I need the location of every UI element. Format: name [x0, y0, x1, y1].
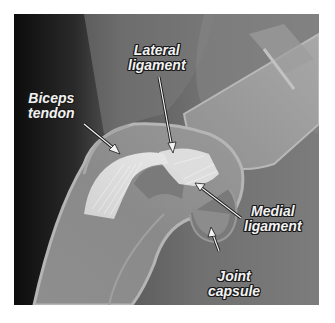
xray-image: Biceps tendon Lateral ligament Medial li… [14, 14, 319, 305]
label-line: Medial [244, 204, 302, 219]
label-line: capsule [208, 284, 260, 299]
label-line: tendon [28, 106, 75, 121]
label-joint-capsule: Joint capsule [208, 269, 260, 299]
label-biceps-tendon: Biceps tendon [28, 91, 75, 121]
label-line: ligament [128, 58, 186, 73]
label-line: Lateral [128, 43, 186, 58]
label-line: Biceps [28, 91, 75, 106]
label-lateral-ligament: Lateral ligament [128, 43, 186, 73]
label-medial-ligament: Medial ligament [244, 204, 302, 234]
label-line: Joint [208, 269, 260, 284]
label-line: ligament [244, 219, 302, 234]
